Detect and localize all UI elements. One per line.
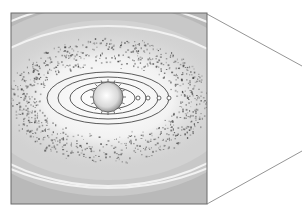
callout-line-top	[207, 14, 302, 66]
protoplanetary-disk-illustration	[0, 0, 302, 214]
star-icon	[93, 82, 123, 112]
planet-3-icon	[157, 96, 161, 100]
callout-lines	[207, 14, 302, 204]
planet-4-icon	[167, 96, 171, 100]
planet-2-icon	[146, 96, 150, 100]
planet-1-icon	[136, 96, 140, 100]
central-star	[90, 79, 126, 115]
callout-line-bottom	[207, 151, 302, 204]
disk-frame-content	[0, 0, 302, 214]
